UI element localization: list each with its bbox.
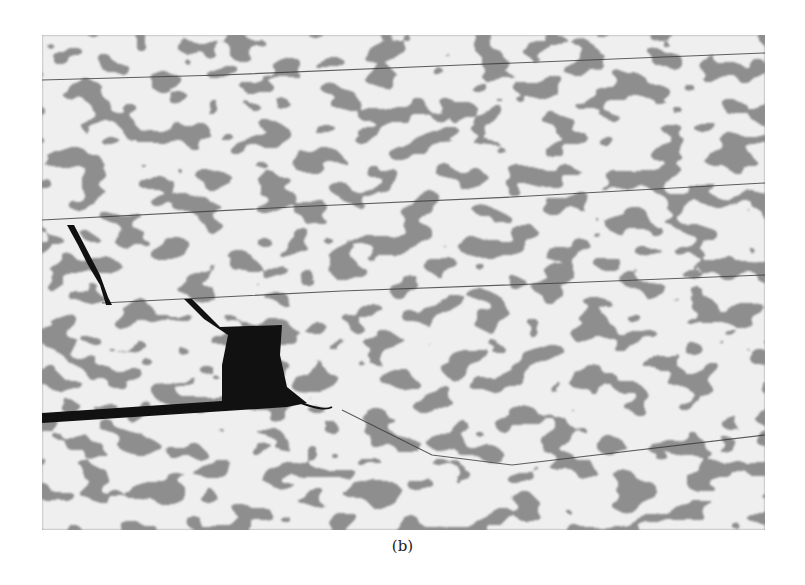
- mottled-texture-image: [42, 35, 765, 530]
- figure-caption: (b): [0, 537, 805, 555]
- photograph: [42, 35, 765, 530]
